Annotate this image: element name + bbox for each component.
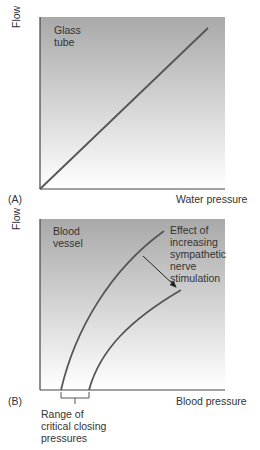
annotation-line-3: sympathetic	[170, 248, 226, 260]
panel-a-label: (A)	[8, 193, 22, 205]
bracket-label-2: critical closing	[41, 420, 106, 432]
blood-vessel-label-1: Blood	[53, 225, 80, 237]
annotation-line-2: increasing	[170, 236, 218, 248]
bracket-label-3: pressures	[41, 432, 87, 444]
y-axis-label-a: Flow	[10, 6, 22, 28]
x-axis-label-a: Water pressure	[176, 193, 247, 205]
y-axis-label-b: Flow	[10, 208, 22, 230]
diagram-canvas	[0, 0, 260, 450]
bracket-label-1: Range of	[41, 408, 84, 420]
x-axis-label-b: Blood pressure	[176, 395, 247, 407]
panel-b-label: (B)	[8, 395, 22, 407]
glass-tube-label-2: tube	[54, 36, 74, 48]
annotation-line-4: nerve	[170, 260, 196, 272]
annotation-line-1: Effect of	[170, 224, 208, 236]
annotation-line-5: stimulation	[170, 272, 220, 284]
critical-closing-bracket	[61, 392, 89, 398]
glass-tube-label-1: Glass	[54, 24, 81, 36]
blood-vessel-label-2: vessel	[53, 237, 83, 249]
